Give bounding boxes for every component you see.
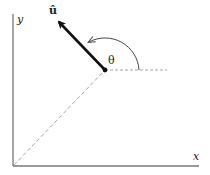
y-axis-label: y — [16, 13, 24, 26]
angle-label: θ — [108, 54, 115, 67]
vector-tail-dot — [103, 68, 108, 73]
unit-vector-diagram: y x û θ — [0, 0, 210, 175]
x-axis-label: x — [193, 150, 200, 163]
unit-vector-label: û — [49, 4, 57, 17]
position-dashed-line — [14, 70, 105, 165]
unit-vector-arrow — [59, 22, 105, 70]
